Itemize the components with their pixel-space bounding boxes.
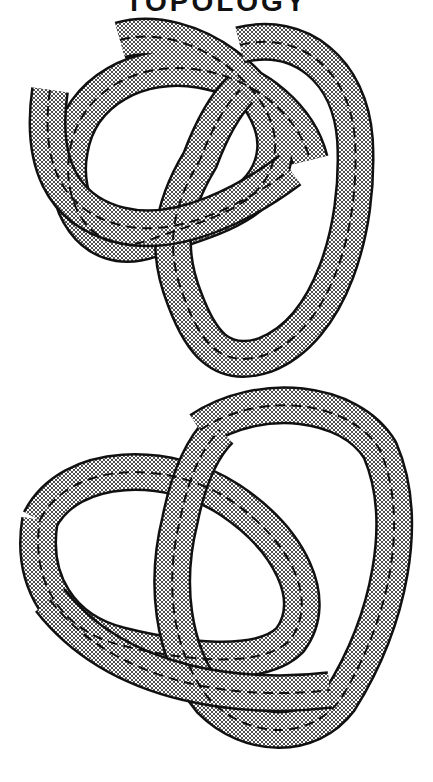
upper-knot (48, 37, 356, 359)
lower-knot (38, 405, 394, 730)
knot-illustrations (0, 0, 433, 782)
